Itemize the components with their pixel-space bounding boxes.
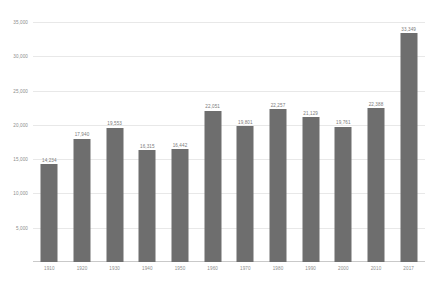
bar[interactable] <box>335 127 352 263</box>
bar-value-label: 17,940 <box>75 132 90 137</box>
bar-chart: 5,00010,00015,00020,00025,00030,00035,00… <box>0 0 432 295</box>
bar-group[interactable]: 19,553 <box>98 22 131 262</box>
plot-area: 14,23417,94019,55316,31516,44222,05119,8… <box>33 22 425 262</box>
bar-group[interactable]: 19,761 <box>327 22 360 262</box>
bar[interactable] <box>302 117 319 262</box>
bar-value-label: 19,761 <box>336 120 351 125</box>
x-axis-tick-label: 1990 <box>305 266 316 271</box>
bar[interactable] <box>73 139 90 262</box>
bar-group[interactable]: 14,234 <box>33 22 66 262</box>
x-axis-tick-label: 1960 <box>207 266 218 271</box>
x-axis-tick-label: 1970 <box>240 266 251 271</box>
bar-group[interactable]: 16,315 <box>131 22 164 262</box>
y-axis-tick-label: 5,000 <box>16 225 28 230</box>
bar[interactable] <box>139 150 156 262</box>
bar-value-label: 19,553 <box>107 121 122 126</box>
bar-value-label: 16,442 <box>173 143 188 148</box>
x-axis-tick-label: 1940 <box>142 266 153 271</box>
bar-group[interactable]: 22,388 <box>360 22 393 262</box>
x-axis-tick-label: 1910 <box>44 266 55 271</box>
x-axis: 1910192019301940195019601970198019902000… <box>33 266 425 280</box>
bar-value-label: 22,388 <box>369 102 384 107</box>
bar[interactable] <box>367 108 384 262</box>
y-axis-tick-label: 15,000 <box>13 157 28 162</box>
x-axis-tick-label: 2017 <box>403 266 414 271</box>
bar-group[interactable]: 33,349 <box>392 22 425 262</box>
bar-value-label: 19,801 <box>238 120 253 125</box>
y-axis-tick-label: 20,000 <box>13 122 28 127</box>
bar[interactable] <box>237 126 254 262</box>
bar-group[interactable]: 22,051 <box>196 22 229 262</box>
x-axis-tick-label: 2000 <box>338 266 349 271</box>
y-axis: 5,00010,00015,00020,00025,00030,00035,00… <box>0 22 31 262</box>
y-axis-tick-label: 25,000 <box>13 88 28 93</box>
bar[interactable] <box>106 128 123 262</box>
bar-value-label: 16,315 <box>140 144 155 149</box>
y-axis-tick-label: 35,000 <box>13 20 28 25</box>
bar-group[interactable]: 21,129 <box>294 22 327 262</box>
bar-value-label: 14,234 <box>42 158 57 163</box>
bar-value-label: 22,257 <box>271 103 286 108</box>
bar-value-label: 22,051 <box>205 104 220 109</box>
x-axis-tick-label: 1980 <box>273 266 284 271</box>
bar-group[interactable]: 17,940 <box>66 22 99 262</box>
bar[interactable] <box>400 33 417 262</box>
bar-value-label: 33,349 <box>401 27 416 32</box>
bar[interactable] <box>204 111 221 262</box>
x-axis-tick-label: 2010 <box>371 266 382 271</box>
bar[interactable] <box>171 149 188 262</box>
bar-group[interactable]: 16,442 <box>164 22 197 262</box>
bar[interactable] <box>269 109 286 262</box>
bar-group[interactable]: 22,257 <box>262 22 295 262</box>
bar-value-label: 21,129 <box>303 111 318 116</box>
x-axis-tick-label: 1930 <box>109 266 120 271</box>
y-axis-tick-label: 30,000 <box>13 54 28 59</box>
y-axis-tick-label: 10,000 <box>13 191 28 196</box>
x-axis-tick-label: 1920 <box>77 266 88 271</box>
bar[interactable] <box>41 164 58 262</box>
x-axis-tick-label: 1950 <box>175 266 186 271</box>
bar-group[interactable]: 19,801 <box>229 22 262 262</box>
